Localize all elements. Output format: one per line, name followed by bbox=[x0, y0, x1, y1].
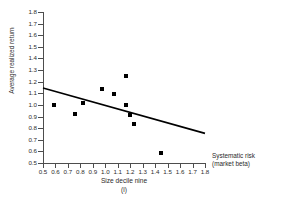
y-tick bbox=[38, 12, 43, 13]
y-tick bbox=[38, 82, 43, 83]
y-tick-label-text: 1.6 bbox=[28, 32, 37, 38]
y-tick-label-text: 1.3 bbox=[28, 67, 37, 73]
x-tick-label-text: 1.8 bbox=[195, 169, 215, 175]
data-point bbox=[73, 112, 77, 116]
y-tick bbox=[38, 24, 43, 25]
y-tick-label-text: 0.9 bbox=[28, 114, 37, 120]
y-tick bbox=[38, 58, 43, 59]
data-point bbox=[132, 122, 136, 126]
y-tick-label-text: 0.6 bbox=[28, 148, 37, 154]
data-point bbox=[81, 101, 85, 105]
y-tick-label-text: 1.4 bbox=[28, 55, 37, 61]
y-tick bbox=[38, 140, 43, 141]
y-tick bbox=[38, 70, 43, 71]
y-tick-label-text: 1.2 bbox=[28, 79, 37, 85]
systematic-risk-note: Systematic risk (market beta) bbox=[212, 152, 280, 167]
y-axis-spine bbox=[43, 12, 44, 163]
y-tick-label-text: 0.8 bbox=[28, 125, 37, 131]
data-point bbox=[159, 151, 163, 155]
data-point bbox=[128, 113, 132, 117]
x-axis-title: Size decile nine bbox=[64, 177, 184, 184]
data-point bbox=[52, 103, 56, 107]
y-tick bbox=[38, 128, 43, 129]
y-tick-label-text: 1.5 bbox=[28, 44, 37, 50]
y-tick-label-text: 0.7 bbox=[28, 137, 37, 143]
y-tick-label-text: 0.5 bbox=[28, 160, 37, 166]
y-tick bbox=[38, 117, 43, 118]
data-point bbox=[100, 87, 104, 91]
y-tick bbox=[38, 35, 43, 36]
data-point bbox=[124, 103, 128, 107]
y-tick-label-text: 1.1 bbox=[28, 90, 37, 96]
y-tick bbox=[38, 151, 43, 152]
systematic-risk-note-line2: (market beta) bbox=[212, 160, 280, 168]
y-tick-label-text: 1.0 bbox=[28, 102, 37, 108]
data-point bbox=[112, 92, 116, 96]
y-tick bbox=[38, 93, 43, 94]
systematic-risk-note-line1: Systematic risk bbox=[212, 152, 280, 160]
y-tick bbox=[38, 47, 43, 48]
chart-figure: 0.50.60.70.80.91.01.11.21.31.41.51.61.71… bbox=[0, 0, 283, 199]
y-axis-title: Average realized return bbox=[8, 13, 15, 109]
y-tick bbox=[38, 105, 43, 106]
y-tick-label-text: 1.7 bbox=[28, 21, 37, 27]
y-tick-label-text: 1.8 bbox=[28, 9, 37, 15]
data-point bbox=[124, 74, 128, 78]
panel-label: (i) bbox=[64, 186, 184, 193]
